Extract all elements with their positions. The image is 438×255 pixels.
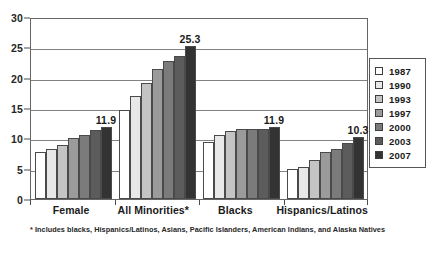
y-axis-tick-label: 5 <box>17 164 23 176</box>
bar <box>287 169 298 199</box>
bar <box>225 131 236 199</box>
bar-group: 11.9 <box>31 19 115 199</box>
legend-label: 1993 <box>389 94 411 105</box>
bar-group: 11.9 <box>199 19 283 199</box>
bar: 11.9 <box>269 127 280 199</box>
y-axis-tick-label: 15 <box>11 103 23 115</box>
legend-swatch <box>375 95 383 103</box>
bar <box>298 167 309 199</box>
bar-group: 25.3 <box>115 19 199 199</box>
plot-area: 11.925.311.910.3 <box>30 18 368 200</box>
bar-value-label: 10.3 <box>347 124 368 136</box>
bar <box>152 69 163 199</box>
legend-swatch <box>375 109 383 117</box>
bar <box>79 135 90 199</box>
legend-swatch <box>375 67 383 75</box>
legend-label: 2007 <box>389 150 411 161</box>
legend-item: 1990 <box>375 78 421 92</box>
legend-label: 1997 <box>389 108 411 119</box>
chart-footnote: * Includes blacks, Hispanics/Latinos, As… <box>30 225 368 234</box>
bar <box>247 129 258 199</box>
legend-item: 2003 <box>375 134 421 148</box>
bar <box>331 149 342 199</box>
legend-item: 1997 <box>375 106 421 120</box>
bar-value-label: 11.9 <box>96 114 117 126</box>
x-axis-category-label: Hispanics/Latinos <box>276 204 368 216</box>
x-axis-category-label: Female <box>30 204 112 216</box>
y-axis-tick-label: 30 <box>11 12 23 24</box>
legend-label: 1987 <box>389 66 411 77</box>
legend-swatch <box>375 81 383 89</box>
bar: 10.3 <box>353 137 364 199</box>
bar: 25.3 <box>185 46 196 199</box>
bar <box>174 56 185 199</box>
bar <box>236 129 247 199</box>
bar <box>203 142 214 199</box>
legend-item: 1993 <box>375 92 421 106</box>
bar <box>46 149 57 199</box>
bar-chart-figure: 051015202530 11.925.311.910.3 FemaleAll … <box>0 0 438 255</box>
legend-label: 1990 <box>389 80 411 91</box>
legend-swatch <box>375 137 383 145</box>
y-axis-tick-label: 0 <box>17 194 23 206</box>
bar-value-label: 25.3 <box>179 33 200 45</box>
bar <box>57 145 68 199</box>
bar <box>90 130 101 199</box>
bar <box>163 61 174 199</box>
legend-item: 2007 <box>375 148 421 162</box>
bar-group: 10.3 <box>283 19 367 199</box>
y-axis: 051015202530 <box>0 0 30 255</box>
y-axis-tick-label: 20 <box>11 73 23 85</box>
x-axis-category-labels: FemaleAll Minorities*BlacksHispanics/Lat… <box>30 204 368 216</box>
legend-label: 2003 <box>389 136 411 147</box>
bar-value-label: 11.9 <box>264 114 285 126</box>
chart-legend: 1987199019931997200020032007 <box>369 58 426 168</box>
legend-label: 2000 <box>389 122 411 133</box>
x-axis-category-label: Blacks <box>194 204 276 216</box>
bar: 11.9 <box>101 127 112 199</box>
bar <box>214 135 225 199</box>
bar <box>258 129 269 199</box>
bar <box>119 110 130 199</box>
y-axis-tick-label: 10 <box>11 133 23 145</box>
legend-item: 1987 <box>375 64 421 78</box>
bar <box>342 143 353 199</box>
bar <box>35 152 46 199</box>
legend-swatch <box>375 123 383 131</box>
bar-groups: 11.925.311.910.3 <box>31 19 367 199</box>
legend-item: 2000 <box>375 120 421 134</box>
bar <box>320 152 331 199</box>
bar <box>130 96 141 199</box>
x-axis-category-label: All Minorities* <box>112 204 194 216</box>
bar <box>309 160 320 199</box>
bar <box>68 138 79 199</box>
bar <box>141 83 152 199</box>
y-axis-tick-label: 25 <box>11 42 23 54</box>
legend-swatch <box>375 151 383 159</box>
